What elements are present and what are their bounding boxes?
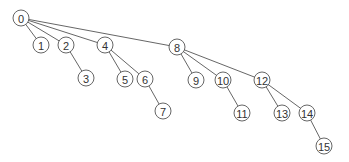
node-label: 7 (160, 106, 166, 118)
tree-node-15: 15 (316, 138, 332, 154)
tree-node-10: 10 (215, 72, 231, 88)
node-label: 3 (83, 73, 89, 85)
tree-node-3: 3 (78, 70, 94, 86)
tree-node-0: 0 (13, 10, 29, 26)
tree-node-14: 14 (299, 105, 315, 121)
tree-node-13: 13 (274, 105, 290, 121)
tree-node-9: 9 (188, 72, 204, 88)
node-label: 12 (256, 75, 268, 87)
tree-node-7: 7 (155, 103, 171, 119)
node-label: 9 (193, 75, 199, 87)
node-label: 4 (102, 40, 108, 52)
tree-node-11: 11 (234, 105, 250, 121)
tree-node-1: 1 (33, 37, 49, 53)
nodes-layer: 0123456789101112131415 (13, 10, 332, 154)
tree-node-6: 6 (137, 71, 153, 87)
tree-node-4: 4 (97, 37, 113, 53)
node-label: 14 (301, 108, 313, 120)
tree-node-8: 8 (169, 39, 185, 55)
tree-diagram: 0123456789101112131415 (0, 0, 349, 162)
node-label: 2 (63, 40, 69, 52)
node-label: 15 (318, 141, 330, 153)
node-label: 6 (142, 74, 148, 86)
tree-svg: 0123456789101112131415 (0, 0, 349, 162)
tree-node-2: 2 (58, 37, 74, 53)
node-label: 5 (122, 74, 128, 86)
node-label: 13 (276, 108, 288, 120)
tree-node-12: 12 (254, 72, 270, 88)
node-label: 11 (236, 108, 247, 120)
node-label: 8 (174, 42, 180, 54)
node-label: 1 (38, 40, 44, 52)
node-label: 0 (18, 13, 24, 25)
node-label: 10 (217, 75, 229, 87)
tree-node-5: 5 (117, 71, 133, 87)
